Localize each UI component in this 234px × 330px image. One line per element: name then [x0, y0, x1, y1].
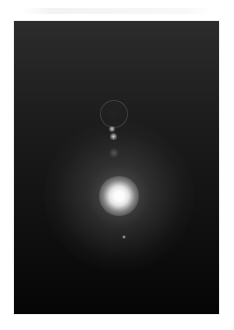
photo-frame: [14, 21, 219, 314]
lens-flare-speck: [122, 235, 126, 239]
lens-flare-faint-orb: [109, 148, 119, 158]
lens-flare-orb: [109, 126, 115, 132]
lens-flare-orb: [110, 133, 117, 140]
main-light-source: [99, 176, 139, 216]
lens-flare-ring: [100, 100, 128, 128]
scan-edge-artifact: [22, 8, 212, 14]
